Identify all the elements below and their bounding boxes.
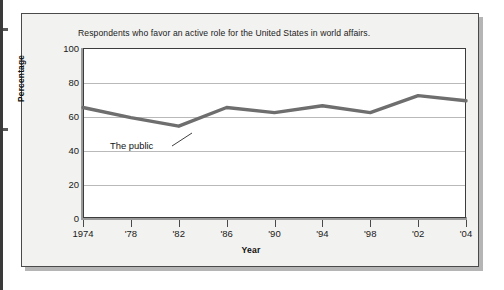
x-axis-tick-label: '90 (268, 228, 280, 239)
x-axis-tick-mark (418, 220, 419, 227)
y-axis-tick-label: 0 (49, 213, 79, 224)
x-axis-tick-mark (275, 220, 276, 227)
x-axis-tick-mark (179, 220, 180, 227)
x-axis-title: Year (22, 245, 480, 255)
annotation-the-public: The public (110, 140, 153, 151)
page-edge-artifact (0, 0, 3, 290)
x-axis-tick-mark (370, 220, 371, 227)
annotation-leader-line (172, 132, 194, 148)
x-axis-tick-mark (466, 220, 467, 227)
y-axis-tick-labels: 100806040200 (41, 48, 79, 218)
x-axis-tick-mark (131, 220, 132, 227)
x-axis-tick-label: '98 (364, 228, 376, 239)
y-axis-tick-label: 60 (49, 111, 79, 122)
x-axis-tick-label: '94 (316, 228, 328, 239)
y-axis-title: Percentage (16, 55, 26, 102)
x-axis-tick-label: '04 (460, 228, 472, 239)
y-axis-tick-label: 40 (49, 145, 79, 156)
x-axis-tick-label: '82 (173, 228, 185, 239)
series-line-chart (83, 48, 466, 218)
y-axis-tick-label: 80 (49, 77, 79, 88)
figure-card: Respondents who favor an active role for… (21, 13, 479, 267)
x-axis-tick-label: '78 (125, 228, 137, 239)
chart-title: Respondents who favor an active role for… (78, 28, 478, 38)
x-axis-tick-mark (322, 220, 323, 227)
x-axis-tick-marks (83, 220, 466, 228)
x-axis-tick-labels: 1974'78'82'86'90'94'98'02'04 (83, 228, 466, 242)
x-axis-tick-mark (83, 220, 84, 227)
x-axis-tick-label: '02 (412, 228, 424, 239)
page-edge-notch-bottom (3, 128, 8, 131)
x-axis-tick-label: '86 (220, 228, 232, 239)
x-axis-tick-mark (227, 220, 228, 227)
page-edge-notch-top (3, 28, 8, 31)
y-axis-tick-label: 20 (49, 179, 79, 190)
x-axis-tick-label: 1974 (72, 228, 93, 239)
y-axis-tick-label: 100 (49, 43, 79, 54)
series-line-the-public (83, 96, 466, 127)
